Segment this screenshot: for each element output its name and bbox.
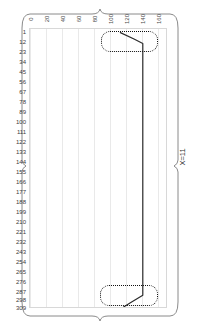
ytick-label: 78 <box>4 98 26 107</box>
ytick-label: 232 <box>4 238 26 247</box>
ytick-label: 243 <box>4 248 26 257</box>
ytick-label: 166 <box>4 178 26 187</box>
ytick-label: 254 <box>4 258 26 267</box>
highlight-region-top <box>101 31 158 52</box>
ytick-label: 177 <box>4 188 26 197</box>
ytick-label: 45 <box>4 68 26 77</box>
ytick-label: 67 <box>4 88 26 97</box>
x-value-annotation: X=11 <box>176 127 190 187</box>
ytick-label: 23 <box>4 48 26 57</box>
ytick-label: 133 <box>4 148 26 157</box>
ytick-label: 122 <box>4 138 26 147</box>
ytick-label: 34 <box>4 58 26 67</box>
ytick-label: 56 <box>4 78 26 87</box>
ytick-label: 155 <box>4 168 26 177</box>
ytick-label: 100 <box>4 118 26 127</box>
ytick-label: 111 <box>4 128 26 137</box>
plot-area <box>29 28 167 308</box>
chart-panel: 0 20 40 60 80 100 120 140 160 1 12 23 34… <box>0 0 200 329</box>
ytick-label: 265 <box>4 268 26 277</box>
ytick-label: 89 <box>4 108 26 117</box>
ytick-label: 144 <box>4 158 26 167</box>
ytick-label: 1 <box>4 28 26 37</box>
ytick-label: 199 <box>4 208 26 217</box>
ytick-label: 188 <box>4 198 26 207</box>
ytick-label: 276 <box>4 278 26 287</box>
ytick-label: 309 <box>4 304 26 313</box>
ytick-label: 210 <box>4 218 26 227</box>
ytick-label: 221 <box>4 228 26 237</box>
highlight-region-bottom <box>100 285 158 306</box>
data-series-line <box>30 29 166 307</box>
ytick-label: 12 <box>4 38 26 47</box>
